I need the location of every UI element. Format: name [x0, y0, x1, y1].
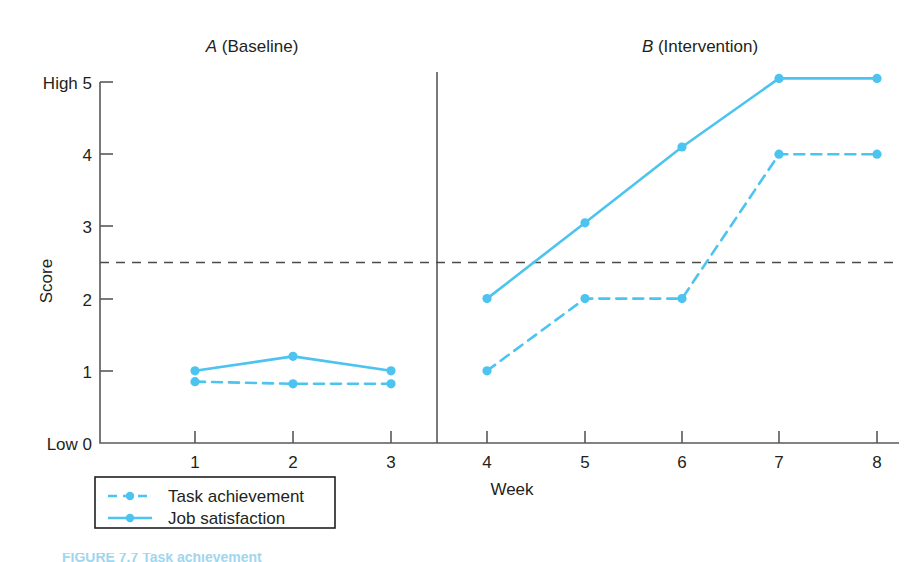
- data-point: [288, 379, 297, 388]
- y-tick-label-3: 3: [83, 218, 92, 237]
- phase-letter-a: A: [205, 37, 217, 56]
- y-tick-label-5: High 5: [43, 74, 92, 93]
- data-point: [190, 377, 199, 386]
- y-tick-label-1: 1: [83, 363, 92, 382]
- data-point: [677, 142, 686, 151]
- data-point: [386, 379, 395, 388]
- single-case-design-chart: A (Baseline) B (Intervention) High 5 4 3…: [0, 0, 914, 562]
- data-point: [580, 294, 589, 303]
- data-point: [190, 366, 199, 375]
- figure-caption-partial: FIGURE 7.7 Task achievement: [62, 553, 362, 562]
- x-tick-label-3: 3: [386, 453, 395, 472]
- y-axis-title: Score: [37, 259, 56, 303]
- x-axis-title: Week: [490, 480, 534, 499]
- phase-label-b: B (Intervention): [642, 37, 758, 56]
- data-point: [872, 150, 881, 159]
- chart-legend: Task achievement Job satisfaction: [95, 477, 335, 528]
- phase-name-a: (Baseline): [222, 37, 299, 56]
- data-point: [386, 366, 395, 375]
- phase-letter-b: B: [642, 37, 653, 56]
- legend-label-job-satisfaction: Job satisfaction: [168, 509, 285, 528]
- x-tick-label-6: 6: [677, 453, 686, 472]
- data-point: [288, 352, 297, 361]
- x-tick-marks: [195, 431, 877, 443]
- legend-item-job-satisfaction[interactable]: Job satisfaction: [108, 509, 285, 528]
- x-tick-label-5: 5: [580, 453, 589, 472]
- data-point: [677, 294, 686, 303]
- y-tick-marks: [100, 82, 113, 371]
- x-tick-label-1: 1: [190, 453, 199, 472]
- y-tick-label-4: 4: [83, 146, 92, 165]
- legend-label-task-achievement: Task achievement: [168, 487, 304, 506]
- series-line-job-satisfaction-phase-b: [487, 78, 877, 298]
- data-point: [872, 74, 881, 83]
- phase-label-a: A (Baseline): [205, 37, 299, 56]
- data-point: [774, 150, 783, 159]
- legend-marker-solid: [126, 514, 134, 522]
- data-point: [482, 294, 491, 303]
- legend-item-task-achievement[interactable]: Task achievement: [108, 487, 304, 506]
- data-point: [482, 366, 491, 375]
- x-tick-label-8: 8: [872, 453, 881, 472]
- x-tick-label-7: 7: [774, 453, 783, 472]
- data-point: [774, 74, 783, 83]
- legend-marker-dashed: [126, 492, 134, 500]
- y-tick-label-2: 2: [83, 291, 92, 310]
- x-tick-label-2: 2: [288, 453, 297, 472]
- phase-name-b: (Intervention): [658, 37, 758, 56]
- y-tick-label-0: Low 0: [47, 435, 92, 454]
- x-tick-label-4: 4: [482, 453, 491, 472]
- figure-page: A (Baseline) B (Intervention) High 5 4 3…: [0, 0, 914, 562]
- data-point: [580, 218, 589, 227]
- data-series-layer: [190, 74, 881, 389]
